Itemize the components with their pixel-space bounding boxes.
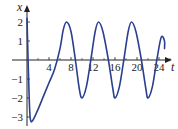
y-tick-label: −3 [11,111,23,123]
line-chart: 481216202421−1−2−3 t x [0,0,178,129]
x-tick-label: 8 [68,61,74,73]
y-axis-arrow-icon [24,5,30,12]
y-axis-label: x [16,0,23,14]
x-tick-label: 16 [110,61,122,73]
y-tick-label: 2 [18,16,24,28]
y-tick-label: −1 [11,73,23,85]
x-axis-label: t [171,60,175,74]
tick-labels: 481216202421−1−2−3 [11,16,165,123]
y-tick-label: 1 [18,35,24,47]
x-tick-label: 4 [46,61,52,73]
y-tick-label: −2 [11,92,23,104]
